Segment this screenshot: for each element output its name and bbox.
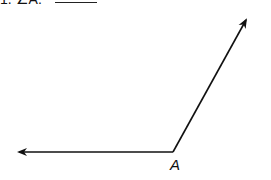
ray-upper xyxy=(173,20,246,152)
vertex-label: A xyxy=(170,156,180,173)
angle-diagram xyxy=(0,0,271,180)
